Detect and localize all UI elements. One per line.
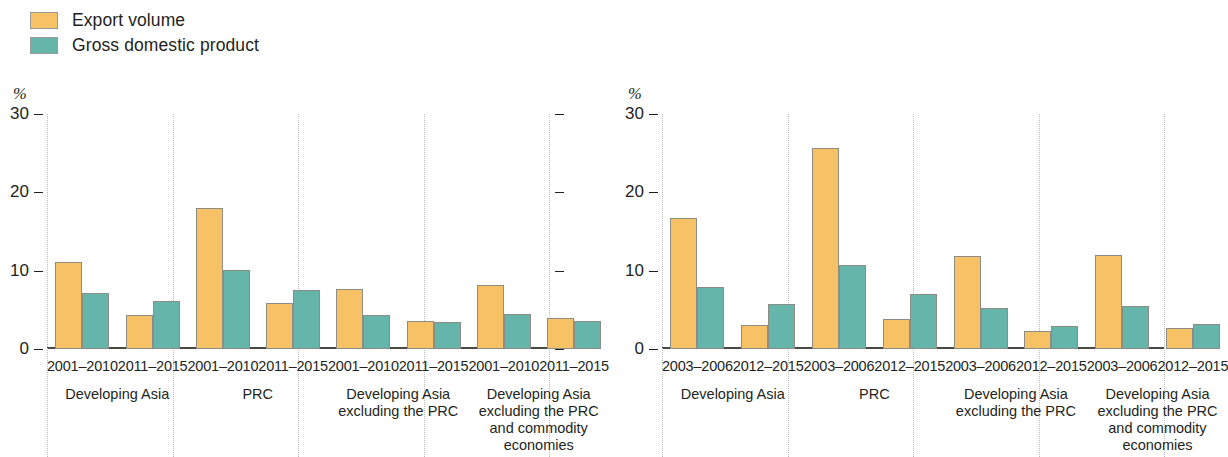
- y-tick-label-right-20: 20: [625, 182, 644, 201]
- period-label: 2003–2006: [1087, 358, 1158, 374]
- period-label: 2003–2006: [804, 358, 875, 374]
- bar-export-volume[interactable]: [883, 319, 910, 349]
- bar-group: 2001–20102011–2015PRC: [187, 114, 327, 457]
- y-tick-left-0: 0: [20, 339, 47, 359]
- y-tick-label-left-0: 0: [20, 339, 29, 358]
- bar-export-volume[interactable]: [741, 325, 768, 349]
- bar-group: 2001–20102011–2015Developing Asia exclud…: [468, 114, 608, 457]
- group-label: Developing Asia: [47, 386, 187, 403]
- bar-gdp[interactable]: [910, 294, 937, 349]
- y-tick-left-10: 10: [10, 261, 47, 281]
- bar-gdp[interactable]: [768, 304, 795, 349]
- bar-gdp[interactable]: [1051, 326, 1078, 349]
- period-label: 2003–2006: [662, 358, 733, 374]
- bar-pair: [399, 114, 469, 349]
- period-label: 2012–2015: [1157, 358, 1228, 374]
- y-tick-dash-left-10: [34, 271, 43, 272]
- bar-gdp[interactable]: [223, 270, 250, 349]
- bar-export-volume[interactable]: [670, 218, 697, 349]
- bar-gdp[interactable]: [153, 301, 180, 349]
- period-label: 2001–2010: [468, 358, 539, 374]
- period-label: 2011–2015: [118, 358, 188, 374]
- bar-pair: [1157, 114, 1228, 349]
- bar-period: 2001–2010: [47, 114, 118, 457]
- bar-pair: [539, 114, 609, 349]
- bar-pair: [258, 114, 328, 349]
- bar-gdp[interactable]: [574, 321, 601, 349]
- bar-gdp[interactable]: [363, 315, 390, 349]
- bar-group: 2003–20062012–2015Developing Asia exclud…: [945, 114, 1087, 457]
- bar-export-volume[interactable]: [547, 318, 574, 349]
- bar-gdp[interactable]: [82, 293, 109, 349]
- bar-period: 2003–2006: [662, 114, 733, 457]
- bar-export-volume[interactable]: [266, 303, 293, 349]
- bar-export-volume[interactable]: [954, 256, 981, 349]
- legend-swatch-gdp: [30, 37, 58, 54]
- period-label: 2001–2010: [47, 358, 118, 374]
- chart-legend: Export volume Gross domestic product: [30, 8, 259, 58]
- bar-gdp[interactable]: [697, 287, 724, 349]
- chart-panel-left: % 30 20 10 0 2001–20102011–2015Developin…: [5, 84, 565, 457]
- group-label: Developing Asia excluding the PRC and co…: [1087, 386, 1228, 454]
- bar-groups-left: 2001–20102011–2015Developing Asia2001–20…: [47, 114, 549, 457]
- y-tick-label-right-0: 0: [635, 339, 644, 358]
- bar-group: 2003–20062012–2015Developing Asia exclud…: [1087, 114, 1228, 457]
- bar-pair: [468, 114, 539, 349]
- bar-export-volume[interactable]: [1095, 255, 1122, 349]
- bar-gdp[interactable]: [1122, 306, 1149, 349]
- bar-pair: [1016, 114, 1087, 349]
- y-tick-right-10: 10: [625, 261, 662, 281]
- y-tick-right-20: 20: [625, 182, 662, 202]
- y-tick-left-20: 20: [10, 182, 47, 202]
- bar-group: 2003–20062012–2015Developing Asia: [662, 114, 804, 457]
- group-label: Developing Asia excluding the PRC: [945, 386, 1087, 420]
- period-label: 2012–2015: [874, 358, 945, 374]
- bar-gdp[interactable]: [293, 290, 320, 349]
- legend-swatch-export-volume: [30, 12, 58, 29]
- period-label: 2011–2015: [539, 358, 609, 374]
- bar-period: 2011–2015: [258, 114, 328, 457]
- bar-period: 2001–2010: [187, 114, 258, 457]
- bar-export-volume[interactable]: [336, 289, 363, 349]
- y-tick-left-30: 30: [10, 104, 47, 124]
- bar-export-volume[interactable]: [812, 148, 839, 349]
- y-tick-label-right-10: 10: [625, 261, 644, 280]
- bar-export-volume[interactable]: [126, 315, 153, 349]
- legend-item-export-volume: Export volume: [30, 8, 259, 33]
- y-tick-dash-r20: [649, 192, 658, 193]
- bar-gdp[interactable]: [981, 308, 1008, 349]
- bar-gdp[interactable]: [434, 322, 461, 349]
- chart-panel-right: % 30 20 10 0 2003–20062012–2015Developin…: [620, 84, 1180, 457]
- bar-groups-right: 2003–20062012–2015Developing Asia2003–20…: [662, 114, 1164, 457]
- y-tick-dash-r0: [649, 349, 658, 350]
- y-tick-dash-r30: [649, 114, 658, 115]
- bar-export-volume[interactable]: [196, 208, 223, 349]
- legend-item-gdp: Gross domestic product: [30, 33, 259, 58]
- bar-gdp[interactable]: [504, 314, 531, 349]
- y-axis-unit-right: %: [628, 84, 642, 104]
- bar-pair: [118, 114, 188, 349]
- bar-gdp[interactable]: [1193, 324, 1220, 349]
- bar-export-volume[interactable]: [55, 262, 82, 349]
- bar-group: 2001–20102011–2015Developing Asia exclud…: [328, 114, 468, 457]
- bar-pair: [1087, 114, 1158, 349]
- bar-period: 2011–2015: [118, 114, 188, 457]
- bar-pair: [874, 114, 945, 349]
- bar-export-volume[interactable]: [1024, 331, 1051, 349]
- legend-label-export-volume: Export volume: [72, 12, 185, 30]
- bar-period: 2003–2006: [804, 114, 875, 457]
- legend-label-gdp: Gross domestic product: [72, 37, 259, 55]
- bar-export-volume[interactable]: [477, 285, 504, 349]
- period-label: 2012–2015: [733, 358, 804, 374]
- bar-pair: [733, 114, 804, 349]
- bar-gdp[interactable]: [839, 265, 866, 349]
- group-label: PRC: [187, 386, 327, 403]
- y-tick-label-left-30: 30: [10, 104, 29, 123]
- bar-pair: [945, 114, 1016, 349]
- bar-export-volume[interactable]: [1166, 328, 1193, 349]
- bar-group: 2001–20102011–2015Developing Asia: [47, 114, 187, 457]
- y-tick-right-0: 0: [635, 339, 662, 359]
- bar-export-volume[interactable]: [407, 321, 434, 349]
- y-tick-label-left-20: 20: [10, 182, 29, 201]
- group-label: Developing Asia: [662, 386, 804, 403]
